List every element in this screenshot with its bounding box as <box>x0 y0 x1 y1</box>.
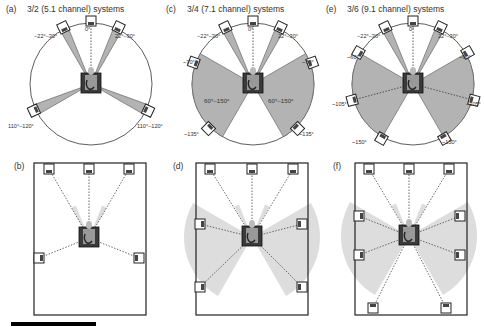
speaker-cone-icon <box>456 213 459 219</box>
speaker-icon <box>297 282 307 292</box>
listener-head-icon <box>250 67 256 75</box>
speaker-icon <box>195 282 205 292</box>
speaker-icon <box>444 164 454 174</box>
speaker-cone-icon <box>290 170 296 173</box>
speaker-icon <box>84 164 94 174</box>
speaker-icon <box>205 164 215 174</box>
svg-text:~135°: ~135° <box>299 131 314 137</box>
speaker-cone-icon <box>201 221 204 227</box>
speaker-icon <box>34 253 44 263</box>
speaker-icon <box>44 164 54 174</box>
speaker-cone-icon <box>88 22 94 25</box>
speaker-icon <box>455 250 465 260</box>
speaker-cone-icon <box>366 170 372 173</box>
svg-text:−22°–30°: −22°–30° <box>34 33 57 39</box>
speaker-icon <box>247 164 257 174</box>
panel-c-title: (c) 3/4 (7.1 channel) systems <box>166 4 284 14</box>
speaker-icon <box>86 16 96 26</box>
svg-text:110°–120°: 110°–120° <box>137 123 163 129</box>
speaker-icon <box>455 211 465 221</box>
svg-text:110°–120°: 110°–120° <box>8 123 34 129</box>
speaker-cone-icon <box>446 170 452 173</box>
speaker-icon <box>124 164 134 174</box>
speaker-cone-icon <box>406 170 412 173</box>
svg-text:3/2 (5.1 channel) systems: 3/2 (5.1 channel) systems <box>27 4 124 14</box>
speaker-cone-icon <box>298 221 301 227</box>
speaker-icon <box>134 253 144 263</box>
svg-text:22°–30°: 22°–30° <box>278 33 298 39</box>
svg-text:0°: 0° <box>85 26 90 32</box>
speaker-cone-icon <box>250 22 256 25</box>
listener-head-icon <box>86 221 92 229</box>
speaker-icon <box>368 303 378 313</box>
speaker-icon <box>364 164 374 174</box>
svg-text:(c): (c) <box>166 4 176 14</box>
speaker-icon <box>297 219 307 229</box>
svg-text:3/4 (7.1 channel) systems: 3/4 (7.1 channel) systems <box>187 4 284 14</box>
svg-text:22°–30°: 22°–30° <box>115 33 135 39</box>
speaker-cone-icon <box>360 252 363 258</box>
listener-head-icon <box>406 219 412 227</box>
svg-text:0°: 0° <box>409 26 414 32</box>
speaker-cone-icon <box>360 213 363 219</box>
svg-text:−22°–30°: −22°–30° <box>197 33 220 39</box>
speaker-cone-icon <box>40 255 43 261</box>
panel-f-tag: (f) <box>333 161 341 171</box>
panel-b-room-diagram <box>34 163 146 315</box>
svg-text:−22°–30°: −22°–30° <box>357 33 380 39</box>
speaker-box-icon <box>346 94 358 106</box>
speaker-icon <box>248 16 258 26</box>
panel-a-title: (a) 3/2 (5.1 channel) systems <box>6 4 124 14</box>
svg-text:0°: 0° <box>248 26 253 32</box>
speaker-cone-icon <box>86 170 92 173</box>
svg-text:~105°: ~105° <box>332 101 347 107</box>
listener-head-icon <box>410 67 416 75</box>
panel-d-tag: (d) <box>173 161 184 171</box>
svg-text:~60°: ~60° <box>459 54 471 60</box>
speaker-icon <box>354 250 364 260</box>
speaker-cone-icon <box>443 304 449 307</box>
speaker-cone-icon <box>410 22 416 25</box>
speaker-cone-icon <box>370 304 376 307</box>
listener-head-icon <box>88 67 94 75</box>
svg-text:3/6 (9.1 channel) systems: 3/6 (9.1 channel) systems <box>347 4 444 14</box>
svg-text:~70°: ~70° <box>302 59 314 65</box>
svg-text:~60°: ~60° <box>347 54 359 60</box>
speaker-cone-icon <box>298 284 301 290</box>
svg-text:60°–150°: 60°–150° <box>268 97 294 104</box>
svg-text:~105°: ~105° <box>466 101 481 107</box>
svg-text:22°–30°: 22°–30° <box>438 33 458 39</box>
speaker-cone-icon <box>46 170 52 173</box>
svg-text:(a): (a) <box>6 4 17 14</box>
speaker-cone-icon <box>456 252 459 258</box>
svg-text:~70°: ~70° <box>183 59 195 65</box>
panel-b-tag: (b) <box>14 161 25 171</box>
surround-diagram: (a) 3/2 (5.1 channel) systems (c) 3/4 (7… <box>0 0 484 327</box>
svg-text:~135°: ~135° <box>184 131 199 137</box>
speaker-cone-icon <box>207 170 213 173</box>
speaker-cone-icon <box>249 170 255 173</box>
svg-text:60°–150°: 60°–150° <box>204 97 230 104</box>
speaker-cone-icon <box>135 255 138 261</box>
speaker-cone-icon <box>201 284 204 290</box>
speaker-icon <box>404 164 414 174</box>
panel-f-room-diagram <box>341 163 477 315</box>
svg-text:(e): (e) <box>326 4 337 14</box>
speaker-icon <box>195 219 205 229</box>
svg-text:~150°: ~150° <box>442 139 457 145</box>
speaker-icon <box>354 211 364 221</box>
svg-text:~150°: ~150° <box>352 139 367 145</box>
speaker-icon <box>346 94 358 106</box>
speaker-icon <box>408 16 418 26</box>
speaker-icon <box>441 303 451 313</box>
scale-bar <box>11 322 96 326</box>
speaker-icon <box>288 164 298 174</box>
panel-e-title: (e) 3/6 (9.1 channel) systems <box>326 4 444 14</box>
panel-d-room-diagram <box>184 163 320 315</box>
speaker-cone-icon <box>126 170 132 173</box>
listener-head-icon <box>249 220 255 228</box>
